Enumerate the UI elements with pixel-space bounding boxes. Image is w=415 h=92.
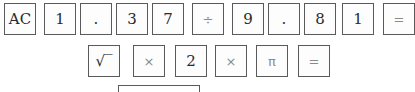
digit-9-key[interactable]: 9 (232, 3, 264, 35)
digit-3-key[interactable]: 3 (116, 3, 148, 35)
clear-key[interactable]: AC (4, 3, 36, 35)
equals-key[interactable]: = (298, 45, 330, 77)
pi-key[interactable]: π (256, 45, 288, 77)
decimal-key[interactable]: . (80, 3, 112, 35)
digit-1-key[interactable]: 1 (44, 3, 76, 35)
multiply-key[interactable]: × (215, 45, 247, 77)
decimal-key[interactable]: . (268, 3, 300, 35)
digit-1-key[interactable]: 1 (342, 3, 374, 35)
equals-key[interactable]: = (383, 3, 415, 35)
digit-2-key[interactable]: 2 (175, 45, 207, 77)
digit-8-key[interactable]: 8 (304, 3, 336, 35)
digit-7-key[interactable]: 7 (152, 3, 184, 35)
square-root-key[interactable]: √‾ (88, 45, 120, 77)
divide-key[interactable]: ÷ (192, 3, 224, 35)
answer-box[interactable] (118, 85, 200, 92)
multiply-key[interactable]: × (133, 45, 165, 77)
